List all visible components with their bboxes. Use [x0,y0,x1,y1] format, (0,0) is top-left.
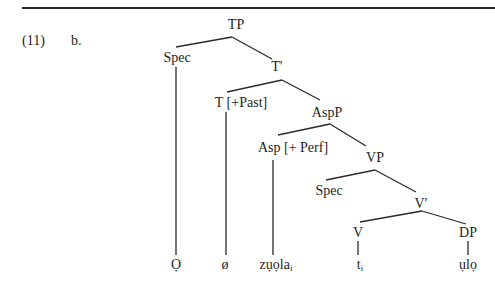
node-t-head: T [+Past] [215,95,267,111]
node-v-head: V [353,225,363,241]
tree-branches [0,0,495,283]
node-t-bar: T′ [271,59,283,75]
leaf-spec: Ọ [171,257,181,273]
leaf-v-index: i [361,263,364,273]
node-aspp: AspP [312,105,342,121]
node-spec-tp: Spec [163,50,190,66]
node-dp: DP [459,225,477,241]
node-spec-vp: Spec [315,183,342,199]
node-vp: VP [366,150,384,166]
leaf-t: ø [222,257,229,273]
leaf-asp-index: i [290,263,293,273]
leaf-dp: ụlọ [459,257,477,273]
leaf-asp: zụọlai [260,257,293,273]
leaf-v: ti [357,257,363,273]
node-v-bar: V′ [414,196,427,212]
node-asp-head: Asp [+ Perf] [258,140,328,156]
node-tp: TP [228,17,244,33]
leaf-asp-text: zụọla [260,257,290,272]
